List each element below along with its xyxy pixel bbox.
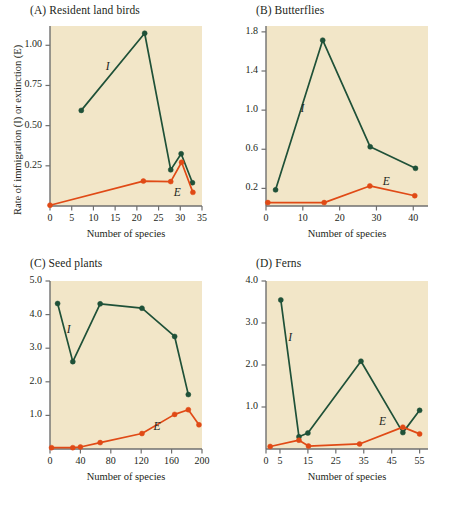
- y-tick-label: 1.0: [6, 408, 42, 419]
- y-tick-label: 5.0: [6, 274, 42, 285]
- data-point-E: [357, 441, 362, 446]
- data-point-E: [141, 179, 146, 184]
- panel-a-plot-area: [50, 26, 202, 206]
- panel-c-title: (C) Seed plants: [30, 257, 102, 269]
- panel-a-title: (A) Resident land birds: [30, 4, 140, 16]
- data-point-E: [48, 203, 53, 208]
- series-annotation-E: E: [153, 420, 160, 432]
- data-point-I: [168, 167, 173, 172]
- x-tick-label: 200: [188, 455, 216, 466]
- data-point-E: [367, 183, 372, 188]
- data-point-I: [55, 301, 60, 306]
- data-point-E: [322, 200, 327, 205]
- x-tick-label: 15: [294, 455, 322, 466]
- data-point-E: [412, 193, 417, 198]
- series-line-E: [270, 427, 419, 446]
- data-point-E: [179, 160, 184, 165]
- y-tick-label: 1.8: [222, 25, 258, 36]
- panel-c-seed-plants: (C) Seed plants Rate of immigration (I) …: [0, 253, 225, 505]
- data-point-I: [70, 359, 75, 364]
- x-tick-label: 160: [158, 455, 186, 466]
- x-tick-label: 10: [289, 212, 317, 223]
- panel-d-plot-area: [266, 281, 428, 449]
- series-annotation-E: E: [174, 186, 181, 198]
- series-line-I: [281, 300, 420, 437]
- data-point-E: [268, 444, 273, 449]
- data-point-I: [278, 297, 283, 302]
- y-tick-label: 4.0: [222, 274, 258, 285]
- series-line-I: [58, 304, 189, 395]
- data-point-E: [417, 431, 422, 436]
- y-tick-label: 0.6: [222, 142, 258, 153]
- panel-d-chart-svg: [266, 281, 428, 449]
- panel-a-resident-land-birds: (A) Resident land birds Rate of immigrat…: [0, 0, 225, 252]
- data-point-E: [78, 444, 83, 449]
- y-tick-label: 2.0: [6, 375, 42, 386]
- y-tick-label: 3.0: [222, 316, 258, 327]
- data-point-E: [186, 407, 191, 412]
- panel-d-x-axis-title: Number of species: [266, 471, 428, 482]
- data-point-I: [139, 306, 144, 311]
- x-tick-label: 30: [362, 212, 390, 223]
- data-point-I: [358, 359, 363, 364]
- x-tick-label: 40: [399, 212, 427, 223]
- data-point-I: [320, 38, 325, 43]
- data-point-E: [400, 425, 405, 430]
- panel-b-butterflies: (B) Butterflies Number of species 0.20.6…: [226, 0, 451, 252]
- data-point-I: [413, 166, 418, 171]
- series-annotation-E: E: [379, 415, 386, 427]
- data-point-I: [98, 301, 103, 306]
- panel-b-title: (B) Butterflies: [256, 4, 324, 16]
- y-tick-label: 4.0: [6, 308, 42, 319]
- series-annotation-E: E: [383, 175, 390, 187]
- data-point-E: [168, 179, 173, 184]
- panel-b-plot-area: [266, 26, 428, 206]
- data-point-E: [306, 444, 311, 449]
- x-tick-label: 0: [36, 455, 64, 466]
- x-tick-label: 45: [378, 455, 406, 466]
- series-annotation-I: I: [301, 102, 305, 114]
- series-line-E: [268, 186, 415, 203]
- x-tick-label: 35: [350, 455, 378, 466]
- x-tick-label: 5: [266, 455, 294, 466]
- data-point-E: [139, 431, 144, 436]
- series-annotation-I: I: [67, 323, 71, 335]
- panel-c-x-axis-title: Number of species: [50, 471, 202, 482]
- x-tick-label: 25: [322, 455, 350, 466]
- series-line-I: [81, 33, 192, 182]
- series-annotation-I: I: [106, 60, 110, 72]
- data-point-E: [190, 190, 195, 195]
- y-tick-label: 3.0: [6, 341, 42, 352]
- x-tick-label: 35: [188, 212, 216, 223]
- y-tick-label: 0.50: [6, 119, 42, 130]
- y-tick-label: 1.00: [6, 38, 42, 49]
- data-point-E: [172, 412, 177, 417]
- panel-d-ferns: (D) Ferns Number of species 1.02.03.04.0…: [226, 253, 451, 505]
- data-point-I: [273, 187, 278, 192]
- panel-b-x-axis-title: Number of species: [266, 228, 428, 239]
- data-point-E: [265, 200, 270, 205]
- x-tick-label: 20: [326, 212, 354, 223]
- x-tick-label: 40: [66, 455, 94, 466]
- panel-d-title: (D) Ferns: [256, 257, 301, 269]
- data-point-I: [172, 334, 177, 339]
- data-point-I: [179, 151, 184, 156]
- panel-a-x-axis-title: Number of species: [50, 228, 202, 239]
- data-point-E: [296, 438, 301, 443]
- x-tick-label: 120: [127, 455, 155, 466]
- x-tick-label: 55: [406, 455, 434, 466]
- data-point-I: [417, 408, 422, 413]
- y-tick-label: 1.0: [222, 103, 258, 114]
- data-point-E: [98, 440, 103, 445]
- data-point-I: [400, 430, 405, 435]
- y-tick-label: 0.75: [6, 78, 42, 89]
- data-point-E: [70, 445, 75, 450]
- x-tick-label: 0: [252, 212, 280, 223]
- data-point-E: [49, 445, 54, 450]
- x-tick-label: 80: [97, 455, 125, 466]
- panel-c-plot-area: [50, 281, 202, 449]
- panel-a-y-axis-title: Rate of immigration (I) or extinction (E…: [12, 45, 23, 215]
- figure-root: (A) Resident land birds Rate of immigrat…: [0, 0, 451, 505]
- panel-c-chart-svg: [50, 281, 202, 449]
- panel-a-chart-svg: [50, 26, 202, 206]
